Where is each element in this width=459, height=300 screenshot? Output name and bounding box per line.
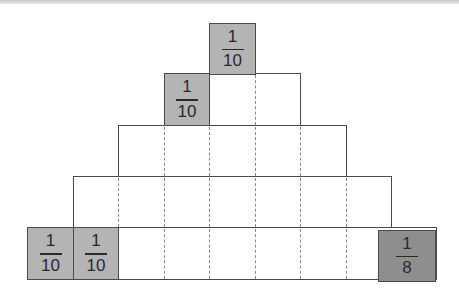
denominator: 10 bbox=[223, 52, 242, 70]
fraction-cell-row2: 1 10 bbox=[164, 73, 210, 126]
dashed-divider bbox=[300, 127, 301, 176]
fraction-bar bbox=[396, 256, 418, 258]
dashed-divider bbox=[300, 178, 301, 227]
fraction-cell-bottom-1: 1 10 bbox=[27, 227, 74, 280]
pyramid-row-3 bbox=[118, 125, 347, 177]
dashed-divider bbox=[346, 178, 347, 227]
dashed-divider bbox=[164, 178, 165, 227]
fraction-cell-top: 1 10 bbox=[209, 23, 256, 75]
dashed-divider bbox=[209, 127, 210, 176]
denominator: 10 bbox=[41, 257, 60, 275]
top-divider bbox=[0, 0, 459, 4]
dashed-divider bbox=[209, 178, 210, 227]
fraction-cell-bottom-right: 1 8 bbox=[378, 230, 436, 282]
numerator: 1 bbox=[91, 232, 100, 250]
fraction-bar bbox=[222, 49, 244, 51]
numerator: 1 bbox=[46, 232, 55, 250]
dashed-divider bbox=[209, 229, 210, 279]
fraction-bar bbox=[85, 253, 107, 255]
dashed-divider bbox=[346, 229, 347, 279]
numerator: 1 bbox=[228, 28, 237, 46]
dashed-divider bbox=[255, 127, 256, 176]
fraction-cell-bottom-2: 1 10 bbox=[73, 227, 119, 280]
dashed-divider bbox=[118, 178, 119, 227]
dashed-divider bbox=[300, 229, 301, 279]
dashed-divider bbox=[255, 229, 256, 279]
numerator: 1 bbox=[402, 235, 411, 253]
fraction-bar bbox=[40, 253, 62, 255]
dashed-divider bbox=[164, 127, 165, 176]
denominator: 10 bbox=[178, 103, 197, 121]
numerator: 1 bbox=[182, 78, 191, 96]
dashed-divider bbox=[164, 229, 165, 279]
dashed-divider bbox=[255, 75, 256, 125]
fraction-bar bbox=[176, 99, 198, 101]
denominator: 8 bbox=[402, 259, 411, 277]
dashed-divider bbox=[255, 178, 256, 227]
pyramid-row-4 bbox=[73, 176, 392, 228]
denominator: 10 bbox=[87, 257, 106, 275]
